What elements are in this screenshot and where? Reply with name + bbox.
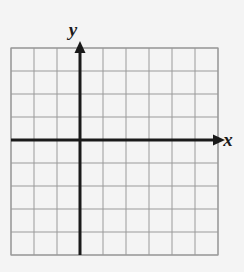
figure-background (0, 0, 244, 272)
x-axis-label: x (222, 129, 233, 150)
coordinate-plane-figure: x y (0, 0, 244, 272)
coordinate-plane-svg: x y (0, 0, 244, 272)
y-axis-label: y (67, 19, 78, 40)
